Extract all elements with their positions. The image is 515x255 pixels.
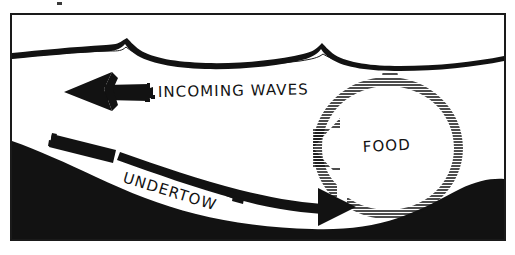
ocean-currents-illustration: INCOMING WAVES UNDERTOW FOOD — [0, 0, 515, 255]
scan-speck — [57, 2, 62, 5]
label-incoming-waves: INCOMING WAVES — [158, 80, 309, 101]
label-food: FOOD — [362, 135, 411, 155]
illustration-canvas: INCOMING WAVES UNDERTOW FOOD — [0, 0, 515, 255]
